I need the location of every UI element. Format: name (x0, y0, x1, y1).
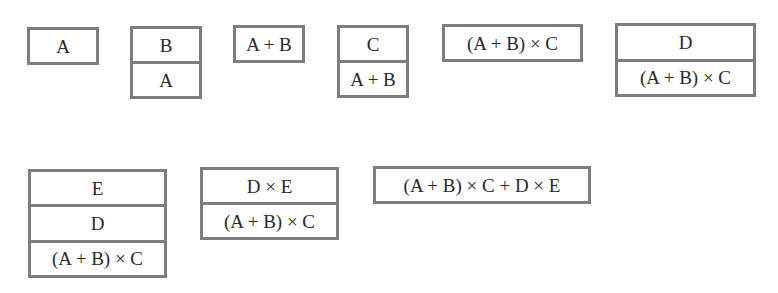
stack-cell: A + B (340, 60, 406, 95)
stack-step-2: B A (130, 26, 202, 99)
stack-cell-top: B (133, 29, 199, 61)
stack-cell: A + B (236, 28, 302, 60)
stack-cell-top: C (340, 28, 406, 60)
stack-cell-top: D (618, 26, 753, 59)
stack-cell: (A + B) × C (445, 27, 580, 59)
stack-step-4: C A + B (337, 25, 409, 98)
stack-step-5: (A + B) × C (442, 24, 583, 62)
stack-step-7: E D (A + B) × C (28, 169, 167, 278)
stack-step-9: (A + B) × C + D × E (373, 166, 591, 204)
stack-cell: (A + B) × C (203, 202, 336, 237)
stack-step-8: D × E (A + B) × C (200, 167, 339, 240)
stack-step-3: A + B (233, 25, 305, 63)
stack-cell: (A + B) × C (618, 59, 753, 95)
stack-cell: A (30, 30, 96, 62)
stack-step-1: A (27, 27, 99, 65)
stack-cell: A (133, 61, 199, 96)
stack-cell: (A + B) × C (31, 240, 164, 275)
stack-cell-top: E (31, 172, 164, 204)
stack-cell-result: (A + B) × C + D × E (376, 169, 588, 201)
stack-step-6: D (A + B) × C (615, 23, 756, 97)
stack-cell-top: D × E (203, 170, 336, 202)
stack-cell: D (31, 204, 164, 239)
